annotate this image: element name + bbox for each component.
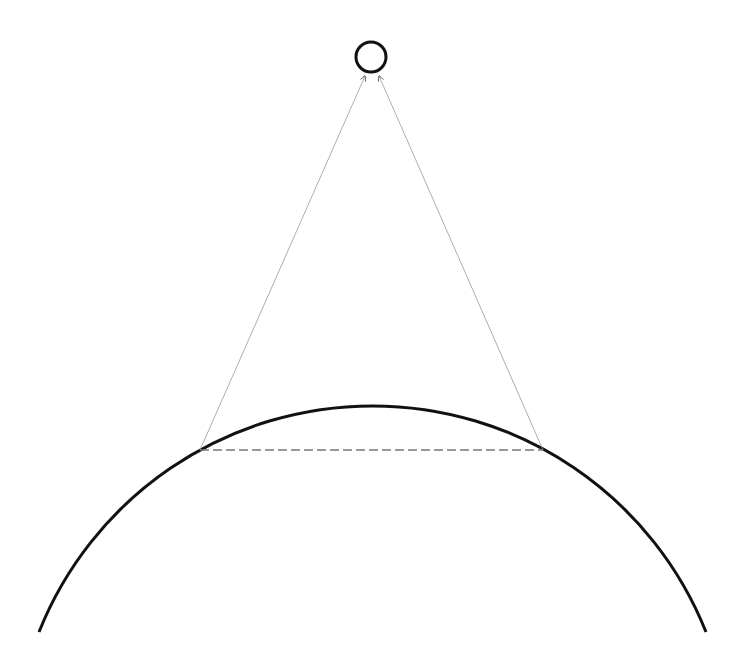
sight-line-left — [200, 76, 365, 450]
horizon-diagram — [0, 0, 746, 672]
sight-line-right — [379, 76, 543, 450]
planet-surface-arc — [39, 406, 706, 632]
observer-circle — [356, 42, 386, 72]
diagram-canvas — [0, 0, 746, 672]
